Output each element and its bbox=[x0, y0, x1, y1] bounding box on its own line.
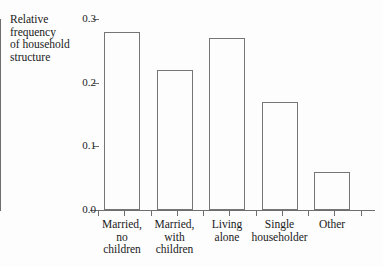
x-tick-4 bbox=[308, 210, 309, 216]
x-axis-label-4: Other bbox=[300, 218, 365, 231]
y-axis-title: Relative frequency of household structur… bbox=[10, 13, 80, 63]
bar-0 bbox=[104, 32, 140, 210]
bar-3 bbox=[262, 102, 298, 210]
x-tick-0 bbox=[98, 210, 99, 216]
bar-2 bbox=[209, 38, 245, 210]
x-tick-5 bbox=[361, 210, 362, 216]
y-axis-line bbox=[0, 19, 1, 211]
x-axis-line bbox=[90, 210, 375, 211]
x-tick-mid-3 bbox=[282, 210, 283, 216]
x-tick-mid-0 bbox=[124, 210, 125, 216]
bar-4 bbox=[314, 172, 350, 210]
x-tick-mid-2 bbox=[229, 210, 230, 216]
x-tick-mid-4 bbox=[334, 210, 335, 216]
y-tick-label: 0.0 bbox=[82, 203, 96, 216]
bar-1 bbox=[157, 70, 193, 210]
x-tick-2 bbox=[203, 210, 204, 216]
bar-chart: Relative frequency of household structur… bbox=[0, 0, 383, 267]
y-tick-label: 0.1 bbox=[82, 139, 96, 152]
x-tick-1 bbox=[151, 210, 152, 216]
x-tick-mid-1 bbox=[177, 210, 178, 216]
y-tick-label: 0.2 bbox=[82, 76, 96, 89]
x-tick-3 bbox=[256, 210, 257, 216]
y-tick-label: 0.3 bbox=[82, 12, 96, 25]
